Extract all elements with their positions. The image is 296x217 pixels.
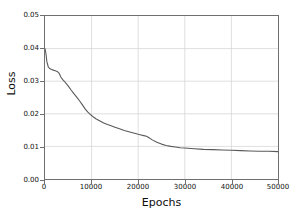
x-tick-mark-10000 (91, 180, 92, 184)
y-axis-title: Loss (5, 54, 18, 114)
x-tick-mark-20000 (138, 180, 139, 184)
y-tick-label-0-03: 0.03 (23, 78, 39, 85)
loss-curve-figure: 0.05 0.04 0.03 0.02 0.01 0.00 0 10000 20… (0, 0, 296, 217)
x-tick-label-30000: 30000 (174, 184, 196, 191)
loss-series-line (45, 16, 278, 179)
y-tick-label-0-01: 0.01 (23, 144, 39, 151)
x-tick-label-0: 0 (42, 184, 46, 191)
x-axis-title: Epochs (44, 196, 279, 209)
y-tick-label-0-00: 0.00 (23, 177, 39, 184)
x-tick-label-50000: 50000 (267, 184, 289, 191)
y-tick-label-0-05: 0.05 (23, 12, 39, 19)
x-tick-mark-40000 (232, 180, 233, 184)
x-tick-label-40000: 40000 (221, 184, 243, 191)
y-tick-label-0-04: 0.04 (23, 45, 39, 52)
y-tick-label-0-02: 0.02 (23, 111, 39, 118)
plot-area (44, 15, 279, 180)
x-tick-mark-30000 (185, 180, 186, 184)
x-tick-label-10000: 10000 (80, 184, 102, 191)
x-tick-mark-50000 (278, 180, 279, 184)
x-tick-mark-0 (44, 180, 45, 184)
x-tick-label-20000: 20000 (127, 184, 149, 191)
